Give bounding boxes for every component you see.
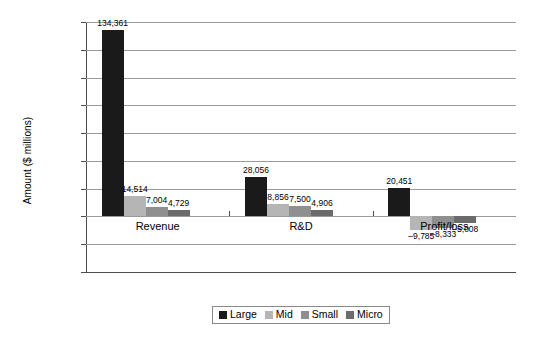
gridline [86, 272, 516, 273]
bar-value-label: 28,056 [233, 166, 279, 175]
bar-value-label: 20,451 [376, 177, 422, 186]
gridline [86, 244, 516, 245]
chart-legend: LargeMidSmallMicro [212, 306, 390, 324]
plot-area: 160,000140,000120,000100,000120,00080,00… [86, 22, 516, 272]
legend-swatch-icon [219, 311, 227, 319]
bar [168, 210, 190, 217]
legend-item: Large [219, 309, 257, 320]
gridline [86, 133, 516, 134]
category-label: R&D [229, 220, 372, 232]
legend-swatch-icon [346, 311, 354, 319]
bar [146, 207, 168, 217]
legend-label: Large [230, 309, 257, 320]
bar-value-label: 4,906 [299, 199, 345, 208]
bar-value-label: 134,361 [90, 19, 136, 28]
y-axis-line [86, 22, 87, 272]
legend-item: Small [301, 309, 338, 320]
bar [388, 188, 410, 216]
y-axis-tick [81, 50, 86, 51]
gridline [86, 78, 516, 79]
legend-item: Mid [265, 309, 293, 320]
bar [311, 210, 333, 217]
y-axis-tick [81, 22, 86, 23]
gridline [86, 50, 516, 51]
y-axis-tick [81, 161, 86, 162]
y-axis-tick [81, 189, 86, 190]
gridline [86, 161, 516, 162]
y-axis-tick [81, 244, 86, 245]
legend-label: Mid [276, 309, 293, 320]
legend-label: Small [312, 309, 338, 320]
y-axis-tick [81, 78, 86, 79]
legend-item: Micro [346, 309, 383, 320]
bar-value-label: 14,514 [112, 185, 158, 194]
legend-swatch-icon [265, 311, 273, 319]
y-axis-tick [81, 133, 86, 134]
bar-chart: Amount ($ millions) 160,000140,000120,00… [0, 0, 545, 344]
category-divider [373, 211, 374, 216]
y-axis-tick [81, 272, 86, 273]
gridline [86, 22, 516, 23]
bar-value-label: 4,729 [156, 199, 202, 208]
legend-label: Micro [357, 309, 383, 320]
category-label: Revenue [86, 220, 229, 232]
category-label: Profit/loss [373, 220, 516, 232]
y-axis-tick [81, 216, 86, 217]
bar [267, 204, 289, 216]
legend-swatch-icon [301, 311, 309, 319]
y-axis-tick [81, 105, 86, 106]
category-divider [229, 211, 230, 216]
y-axis-title: Amount ($ millions) [22, 86, 33, 236]
gridline [86, 105, 516, 106]
